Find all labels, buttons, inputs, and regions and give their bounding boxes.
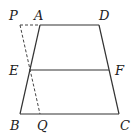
label-C: C xyxy=(120,118,130,133)
label-A: A xyxy=(33,8,43,23)
label-E: E xyxy=(8,63,19,78)
trapezoid-diagram: P A D E F B Q C xyxy=(0,0,139,135)
label-D: D xyxy=(98,8,110,23)
label-F: F xyxy=(114,63,125,78)
label-B: B xyxy=(9,118,20,133)
label-Q: Q xyxy=(37,118,48,133)
label-P: P xyxy=(8,8,18,23)
solid-lines xyxy=(20,25,119,114)
